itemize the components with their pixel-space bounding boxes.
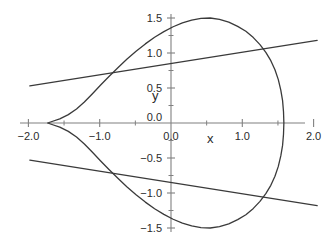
x-tick-label: 2.0 (306, 130, 321, 142)
x-tick-label: 0.0 (163, 130, 178, 142)
y-tick-label: −1.5 (140, 222, 162, 234)
x-tick-label: −2.0 (18, 130, 40, 142)
x-tick-label: 1.0 (235, 130, 250, 142)
series-lower-line (30, 160, 317, 206)
x-tick-label: −1.0 (89, 130, 111, 142)
plot-canvas: −2.0−1.00.01.02.0−1.5−1.0−0.50.00.51.01.… (0, 0, 329, 245)
axis-label-x: x (207, 131, 214, 146)
axis-label-y: y (152, 88, 159, 103)
series-upper-line (30, 40, 317, 86)
y-tick-label: 0.0 (147, 111, 162, 123)
plot-figure: −2.0−1.00.01.02.0−1.5−1.0−0.50.00.51.01.… (0, 0, 329, 245)
y-tick-label: 1.0 (147, 47, 162, 59)
y-tick-label: −1.0 (140, 187, 162, 199)
y-tick-label: −0.5 (140, 152, 162, 164)
y-tick-label: 1.5 (147, 12, 162, 24)
